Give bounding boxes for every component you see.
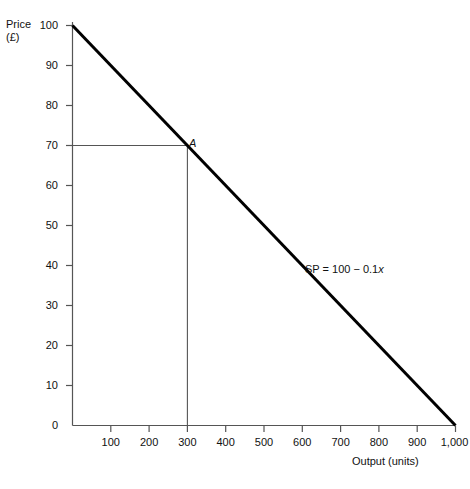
- y-tick-label-70: 70: [30, 139, 58, 151]
- x-axis-title: Output (units): [352, 455, 419, 468]
- y-tick-label-80: 80: [30, 99, 58, 111]
- y-tick-label-30: 30: [30, 299, 58, 311]
- x-tick-label-900: 900: [397, 436, 437, 448]
- y-tick-label-50: 50: [30, 219, 58, 231]
- x-tick-label-200: 200: [129, 436, 169, 448]
- x-tick-label-500: 500: [244, 436, 284, 448]
- y-axis-title-line1: Price: [6, 18, 31, 30]
- x-tick-label-700: 700: [321, 436, 361, 448]
- y-axis-title-line2: (£): [6, 31, 19, 43]
- equation-annotation: SP = 100 − 0.1x: [305, 263, 384, 275]
- y-tick-label-40: 40: [30, 259, 58, 271]
- chart-canvas: [0, 0, 470, 489]
- x-axis-ticks: [111, 426, 456, 433]
- y-tick-label-100: 100: [30, 19, 58, 31]
- equation-text: SP = 100 − 0.1: [305, 263, 378, 275]
- y-axis-ticks: [66, 26, 73, 386]
- x-tick-label-100: 100: [91, 436, 131, 448]
- y-tick-label-0: 0: [30, 419, 58, 431]
- y-tick-label-10: 10: [30, 379, 58, 391]
- y-tick-label-60: 60: [30, 179, 58, 191]
- sp-demand-line: [73, 26, 456, 426]
- y-tick-label-20: 20: [30, 339, 58, 351]
- x-tick-label-600: 600: [282, 436, 322, 448]
- x-tick-label-300: 300: [167, 436, 207, 448]
- x-tick-label-800: 800: [359, 436, 399, 448]
- x-tick-label-400: 400: [206, 436, 246, 448]
- equation-variable: x: [378, 263, 384, 275]
- x-tick-label-1000: 1,000: [435, 436, 470, 448]
- point-a-label: A: [189, 137, 196, 149]
- y-tick-label-90: 90: [30, 59, 58, 71]
- y-axis-title: Price(£): [6, 18, 31, 43]
- demand-curve-chart: Price(£) Output (units) 100 90 80 70 60 …: [0, 0, 470, 489]
